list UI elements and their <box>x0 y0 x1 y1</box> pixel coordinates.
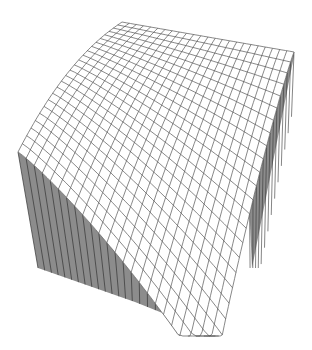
surface-fill <box>18 22 294 336</box>
surface-plot <box>0 0 312 350</box>
surface-mesh-canvas <box>0 0 312 350</box>
surface-mesh <box>18 22 294 336</box>
